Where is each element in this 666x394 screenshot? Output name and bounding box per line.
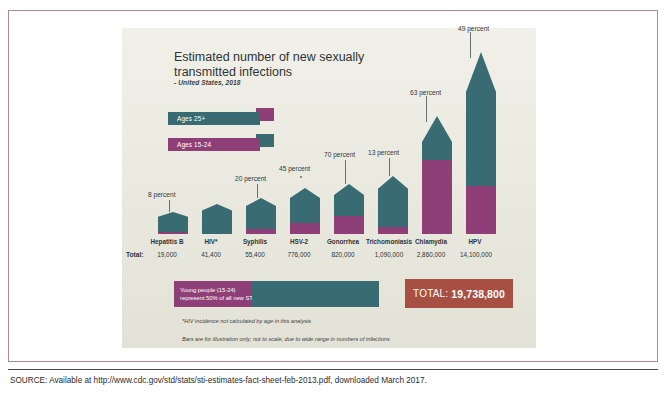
youth-callout-line1: Young people (15-24) bbox=[180, 286, 252, 294]
youth-callout-bar: Young people (15-24) represent 50% of al… bbox=[174, 281, 379, 307]
pct-leader-gonorrhea bbox=[345, 160, 346, 184]
bar-stack bbox=[246, 198, 276, 234]
bar-segment-ages-25plus bbox=[246, 198, 276, 229]
infographic-panel: Estimated number of new sexually transmi… bbox=[122, 28, 536, 348]
bar-segment-ages-15-24 bbox=[466, 186, 496, 234]
pct-label-hsv-2: 45 percent bbox=[279, 165, 310, 172]
pct-label-gonorrhea: 70 percent bbox=[324, 151, 355, 158]
screenshot-root: Estimated number of new sexually transmi… bbox=[0, 0, 666, 394]
bar-shape bbox=[422, 116, 452, 234]
pct-leader-chlamydia bbox=[426, 96, 427, 122]
youth-callout-line2: represent 50% of all new STIs bbox=[180, 294, 252, 302]
bar-group-trichomoniasis: 13 percent bbox=[378, 24, 408, 234]
top-caption bbox=[10, 0, 650, 5]
bar-segment-ages-25plus bbox=[334, 184, 364, 216]
footnote-bars: Bars are for illustration only; not to s… bbox=[182, 336, 390, 342]
bar-group-hepatitis-b: 8 percent bbox=[158, 24, 188, 234]
pct-leader-hepatitis-b bbox=[169, 200, 170, 212]
total-value-syphilis: 55,400 bbox=[230, 251, 280, 258]
bar-shape bbox=[466, 52, 496, 234]
footnote-hiv: *HIV incidence not calculated by age in … bbox=[182, 318, 311, 324]
total-row-label: Total: bbox=[126, 251, 143, 258]
bar-stack bbox=[422, 116, 452, 234]
category-label-chlamydia: Chlamydia bbox=[406, 238, 456, 245]
bar-segment-ages-15-24 bbox=[422, 160, 452, 234]
pct-label-chlamydia: 63 percent bbox=[410, 89, 441, 96]
bar-group-hpv: 49 percent bbox=[466, 24, 496, 234]
bar-shape bbox=[334, 184, 364, 234]
bar-segment-ages-25plus bbox=[202, 204, 232, 234]
youth-callout-teal bbox=[252, 281, 379, 307]
bar-stack bbox=[290, 188, 320, 234]
bar-segment-ages-15-24 bbox=[378, 227, 408, 234]
bar-group-chlamydia: 63 percent bbox=[422, 24, 452, 234]
total-value-hpv: 14,100,000 bbox=[448, 251, 504, 258]
category-label-syphilis: Syphilis bbox=[230, 238, 280, 245]
total-value-hiv: 41,400 bbox=[186, 251, 236, 258]
bar-segment-ages-15-24 bbox=[334, 216, 364, 234]
bar-group-hsv-2: 45 percent bbox=[290, 24, 320, 234]
bar-stack bbox=[466, 52, 496, 234]
bar-stack bbox=[378, 176, 408, 234]
bar-segment-ages-25plus bbox=[422, 116, 452, 160]
pct-label-hepatitis-b: 8 percent bbox=[148, 191, 176, 198]
bar-segment-ages-25plus bbox=[378, 176, 408, 227]
bar-segment-ages-25plus bbox=[290, 188, 320, 223]
bar-segment-ages-15-24 bbox=[290, 223, 320, 234]
bar-chart: 8 percent 20 percent bbox=[150, 24, 520, 234]
bar-segment-ages-25plus bbox=[466, 52, 496, 186]
total-value-hepatitis-b: 19,000 bbox=[142, 251, 192, 258]
bar-shape bbox=[202, 204, 232, 234]
bar-segment-ages-15-24 bbox=[158, 232, 188, 234]
youth-callout-purple: Young people (15-24) represent 50% of al… bbox=[174, 281, 252, 307]
source-divider bbox=[8, 369, 658, 370]
pct-label-hpv: 49 percent bbox=[458, 25, 489, 32]
grand-total-box: TOTAL: 19,738,800 bbox=[405, 279, 513, 308]
source-line: SOURCE: Available at http://www.cdc.gov/… bbox=[10, 376, 427, 385]
total-value-hsv-2: 776,000 bbox=[274, 251, 324, 258]
pct-label-syphilis: 20 percent bbox=[235, 175, 266, 182]
pct-leader-syphilis bbox=[257, 184, 258, 198]
bar-stack bbox=[158, 212, 188, 234]
category-label-hsv-2: HSV-2 bbox=[274, 238, 324, 245]
bar-segment-ages-25plus bbox=[158, 212, 188, 232]
category-label-hiv: HIV* bbox=[186, 238, 236, 245]
bar-group-hiv bbox=[202, 24, 232, 234]
pct-leader-hpv bbox=[470, 32, 471, 58]
bar-stack bbox=[202, 204, 232, 234]
bar-shape bbox=[378, 176, 408, 234]
bar-shape bbox=[246, 198, 276, 234]
grand-total-label: TOTAL: bbox=[413, 288, 448, 299]
category-label-hepatitis-b: Hepatitis B bbox=[142, 238, 192, 245]
bar-group-syphilis: 20 percent bbox=[246, 24, 276, 234]
bar-segment-ages-15-24 bbox=[246, 229, 276, 234]
category-label-hpv: HPV bbox=[450, 238, 500, 245]
bar-shape bbox=[290, 188, 320, 234]
bar-stack bbox=[334, 184, 364, 234]
pct-label-trichomoniasis: 13 percent bbox=[368, 149, 399, 156]
grand-total-value: 19,738,800 bbox=[451, 288, 505, 300]
pct-leader-trichomoniasis bbox=[389, 158, 390, 176]
bar-group-gonorrhea: 70 percent bbox=[334, 24, 364, 234]
bar-shape bbox=[158, 212, 188, 234]
pct-dot-hsv-2 bbox=[300, 176, 302, 178]
